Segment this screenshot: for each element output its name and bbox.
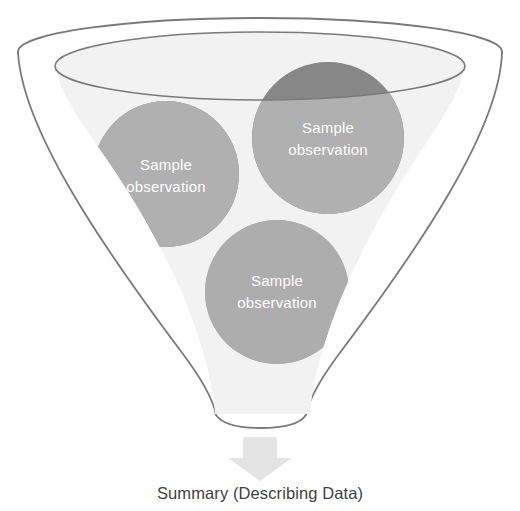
diagram-canvas: Sample observation Sample observation Sa… bbox=[0, 0, 520, 511]
observation-label-right-line2: observation bbox=[288, 141, 368, 158]
observation-label-bottom-line2: observation bbox=[237, 294, 317, 311]
down-arrow-shape bbox=[228, 437, 292, 481]
observation-label-left-line1: Sample bbox=[140, 156, 192, 173]
down-arrow bbox=[228, 437, 292, 481]
summary-caption: Summary (Describing Data) bbox=[0, 484, 520, 503]
observation-label-bottom-line1: Sample bbox=[251, 272, 303, 289]
observation-label-left-line2: observation bbox=[126, 178, 206, 195]
funnel-diagram: Sample observation Sample observation Sa… bbox=[0, 0, 520, 511]
observation-label-right-line1: Sample bbox=[302, 119, 354, 136]
